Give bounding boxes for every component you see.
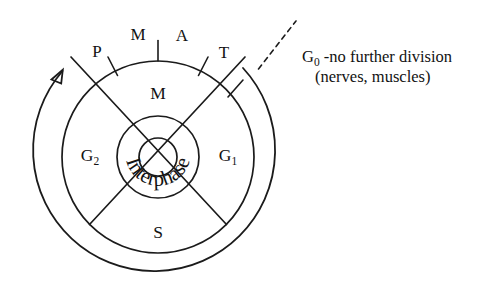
g2-subscript: 2 [93,155,99,167]
g2-letter: G [81,145,94,165]
g0-rest: -no further division [320,47,452,66]
tick-t-end [228,80,243,97]
stage-label-prophase: P [92,42,101,61]
quadrant-label-g1: G1 [219,145,238,167]
quadrant-label-m: M [150,83,166,103]
cell-cycle-figure: P M A T M G1 S G2 Interphase G0 -no furt… [0,0,488,294]
quadrant-label-g2: G2 [81,145,100,167]
cell-cycle-diagram: P M A T M G1 S G2 Interphase G0 -no furt… [0,0,488,294]
stage-label-telophase: T [219,43,230,62]
divider-nw-se [71,57,227,225]
divider-ne-sw [90,57,246,225]
stage-label-metaphase: M [130,25,145,44]
g0-annotation-line1: G0 -no further division [302,47,452,68]
g1-letter: G [219,145,232,165]
g1-subscript: 1 [231,155,237,167]
g0-pointer-dashed-line [259,21,297,69]
interphase-curved-label: Interphase [121,154,194,191]
g0-annotation-line2: (nerves, muscles) [315,67,430,86]
g0-letter: G [302,47,314,66]
stage-label-anaphase: A [176,26,189,45]
quadrant-label-s: S [153,222,163,242]
